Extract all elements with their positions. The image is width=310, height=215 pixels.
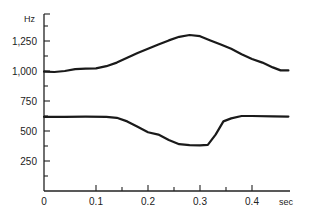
upper-formant-line <box>44 35 288 72</box>
y-axis-unit-label: Hz <box>24 14 35 24</box>
x-tick-label: 0.3 <box>193 196 207 207</box>
y-tick-label: 1,000 <box>12 66 37 77</box>
x-tick-label: 0 <box>41 196 47 207</box>
x-axis-unit-label: sec <box>279 197 294 207</box>
y-tick-label: 500 <box>20 126 37 137</box>
x-tick-label: 0.2 <box>141 196 155 207</box>
x-tick-label: 0.1 <box>89 196 103 207</box>
chart: 00.10.20.30.42505007501,0001,250 Hz sec <box>0 0 310 215</box>
x-tick-label: 0.4 <box>245 196 259 207</box>
y-tick-label: 1,250 <box>12 36 37 47</box>
lower-formant-line <box>44 116 288 145</box>
y-tick-label: 250 <box>20 156 37 167</box>
series-group <box>44 35 288 145</box>
y-tick-label: 750 <box>20 96 37 107</box>
ticks <box>44 26 252 191</box>
